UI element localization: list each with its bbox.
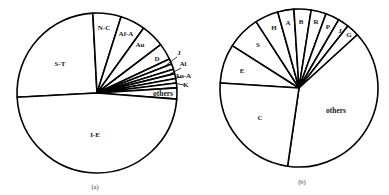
pie-slice-s-t [17,13,97,97]
pie-b-caption: (b) [298,178,306,186]
pie-b-label-others: others [326,106,346,115]
pie-b-label-j: J [338,27,342,35]
pie-b-label-e: E [240,67,245,75]
pie-a-label-n-c: N-C [98,24,110,32]
pie-a-label-au: Au [136,41,145,49]
pie-b-label-c: C [257,114,262,122]
pie-chart-b [220,9,378,167]
pie-a-label-af-a: Af-A [119,30,134,38]
pie-b-label-s: S [256,41,260,49]
pie-a-label-j: J [177,49,181,57]
pie-b-label-h: H [271,24,277,32]
pie-a-label-al: Al [180,60,187,68]
pie-a-label-s-t: S-T [55,60,66,68]
pie-slice-c [220,83,299,166]
pie-a-label-k: K [183,81,189,89]
pie-a-caption: (a) [91,183,98,191]
pie-a-label-others: others [153,89,173,98]
pie-a-label-i-e: I-E [90,131,100,139]
pie-b-label-b: B [299,18,304,26]
pie-a-label-au-a: Au-A [175,72,191,80]
pie-b-label-p: P [326,23,331,31]
pie-a-label-d: D [154,55,159,63]
pie-b-label-a: A [285,19,290,27]
pie-b-label-g: G [346,31,352,39]
pie-charts-figure: S-TN-CAf-AAuDJAlAu-AKothersI-E(a) HABRPJ… [0,0,389,195]
